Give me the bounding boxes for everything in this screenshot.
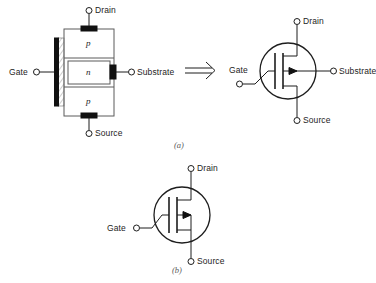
symbol-b-drain-label: Drain	[197, 163, 218, 173]
symbol-b-gate-label: Gate	[107, 223, 126, 233]
figure-label-b: (b)	[172, 265, 182, 275]
symbol-b-source-label: Source	[197, 256, 225, 266]
